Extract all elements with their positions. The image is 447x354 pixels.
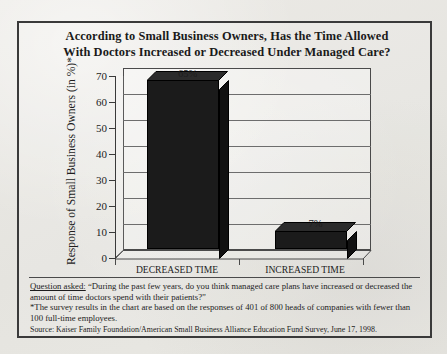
plot-floor xyxy=(115,250,371,259)
y-axis-line: 70 60 50 40 30 20 10 0 xyxy=(115,76,116,259)
question-asked-text: “During the past few years, do you think… xyxy=(30,281,412,302)
chart-frame: According to Small Business Owners, Has … xyxy=(17,21,432,338)
y-tick-20 xyxy=(109,206,115,207)
y-tick-10 xyxy=(109,232,115,233)
y-tick-label-40: 40 xyxy=(96,148,107,160)
page-title: According to Small Business Owners, Has … xyxy=(41,29,413,60)
bar-chart: Response of Small Business Owners (in %)… xyxy=(19,63,430,278)
survey-footnote: *The survey results in the chart are bas… xyxy=(30,302,422,323)
x-tick-mid xyxy=(239,259,240,265)
y-axis-title: Response of Small Business Owners (in %)… xyxy=(49,63,93,258)
bar-label-decreased-time: 65% xyxy=(147,68,228,79)
bar-label-increased-time: 7% xyxy=(275,218,356,229)
y-tick-label-30: 30 xyxy=(96,174,107,186)
bar-increased-time[interactable] xyxy=(275,231,347,249)
y-tick-label-20: 20 xyxy=(96,200,107,212)
y-axis-title-line-2: (in %)* xyxy=(65,56,78,91)
y-tick-40 xyxy=(109,154,115,155)
y-tick-30 xyxy=(109,180,115,181)
y-tick-50 xyxy=(109,128,115,129)
y-tick-label-10: 10 xyxy=(96,226,107,238)
bar-decreased-time-front-face xyxy=(147,80,219,249)
y-tick-label-60: 60 xyxy=(96,96,107,108)
question-note: Question asked: “During the past few yea… xyxy=(30,281,422,302)
question-asked-label: Question asked: xyxy=(30,281,86,291)
y-axis-title-line-1: Response of Small Business Owners xyxy=(65,94,78,264)
source-line: Source: Kaiser Family Foundation/America… xyxy=(30,325,422,336)
x-axis-label-decreased-time: DECREASED TIME xyxy=(115,264,239,275)
x-axis-label-increased-time: INCREASED TIME xyxy=(243,264,367,275)
bar-decreased-time-side-face xyxy=(219,80,228,249)
y-tick-label-0: 0 xyxy=(102,252,108,264)
plot-area: 70 60 50 40 30 20 10 0 xyxy=(115,68,371,258)
y-tick-60 xyxy=(109,102,115,103)
bar-increased-time-side-face xyxy=(347,231,356,249)
y-tick-label-70: 70 xyxy=(96,70,107,82)
title-line-1: According to Small Business Owners, Has … xyxy=(41,29,413,45)
bar-decreased-time[interactable] xyxy=(147,80,219,249)
notes-block: Question asked: “During the past few yea… xyxy=(30,281,422,335)
plot-left-depth xyxy=(115,76,124,258)
bar-increased-time-front-face xyxy=(275,231,347,249)
title-line-2: With Doctors Increased or Decreased Unde… xyxy=(41,45,413,61)
y-tick-label-50: 50 xyxy=(96,122,107,134)
notes-divider xyxy=(29,277,420,278)
y-tick-70 xyxy=(109,76,115,77)
